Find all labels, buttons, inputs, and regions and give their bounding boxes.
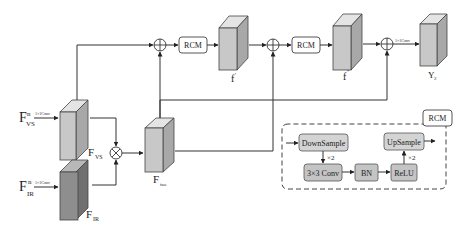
- f-ir-label: F IR: [86, 208, 99, 222]
- f-vs-label: F VS: [88, 146, 103, 160]
- rcm-module-2: RCM: [292, 37, 320, 53]
- fuse-side-connection: [175, 100, 273, 151]
- conv-block: 3×3 Conv: [304, 164, 342, 181]
- f-double-prime-label: f '': [343, 69, 349, 82]
- f-double-prime-cube: [333, 14, 362, 70]
- svg-text:F: F: [86, 208, 92, 220]
- f-fuse-label: F fuse: [153, 173, 167, 187]
- downsample-block: DownSample: [299, 134, 348, 151]
- svg-text:ReLU: ReLU: [394, 169, 414, 178]
- svg-text:UpSample: UpSample: [387, 138, 421, 147]
- repeat-down-label: ×2: [327, 154, 335, 162]
- rcm-fusion-diagram: F n VS 1×1Conv F n IR 1×1Conv F VS F IR …: [0, 0, 467, 233]
- f-ir-cube: [60, 160, 88, 220]
- ir-to-multiply-arrow: [92, 160, 116, 185]
- multiply-node: [110, 147, 122, 159]
- svg-text:F: F: [19, 179, 27, 194]
- svg-text:IR: IR: [93, 216, 99, 222]
- y2-label: Y 2: [428, 70, 437, 81]
- f-vs-cube: [60, 100, 88, 160]
- svg-text:RCM: RCM: [429, 114, 447, 123]
- svg-text:2: 2: [434, 76, 437, 81]
- y2-cube: [420, 14, 447, 66]
- fuse-to-add3: [273, 51, 387, 100]
- svg-text:': ': [235, 72, 236, 78]
- output-conv-label: 1×1Conv: [395, 38, 410, 43]
- svg-text:DownSample: DownSample: [302, 139, 346, 148]
- vs-skip-to-add1: [77, 45, 153, 100]
- rcm-legend-label-box: RCM: [423, 110, 452, 126]
- svg-text:3×3 Conv: 3×3 Conv: [307, 169, 339, 178]
- f-prime-label: f ': [231, 72, 236, 84]
- add-node-2: [267, 39, 279, 51]
- svg-text:RCM: RCM: [297, 41, 315, 50]
- svg-text:RCM: RCM: [184, 41, 202, 50]
- svg-text:VS: VS: [26, 120, 35, 128]
- repeat-up-label: ×2: [408, 154, 416, 162]
- svg-text:n: n: [28, 178, 32, 186]
- svg-text:1×1Conv: 1×1Conv: [35, 111, 50, 116]
- add-node-1: [154, 39, 166, 51]
- bn-block: BN: [355, 164, 378, 181]
- svg-text:BN: BN: [361, 169, 372, 178]
- svg-text:F: F: [88, 146, 94, 158]
- add-node-3: [381, 38, 393, 50]
- svg-text:fuse: fuse: [160, 182, 167, 187]
- f-prime-cube: [219, 16, 248, 70]
- svg-text:n: n: [27, 110, 31, 118]
- svg-text:VS: VS: [95, 154, 103, 160]
- upsample-block: UpSample: [384, 133, 424, 150]
- input-ir-label: F n IR 1×1Conv: [19, 178, 50, 198]
- svg-text:'': '': [347, 69, 349, 75]
- svg-text:IR: IR: [27, 190, 34, 198]
- vs-to-multiply-arrow: [90, 118, 116, 146]
- svg-text:F: F: [153, 173, 159, 185]
- relu-block: ReLU: [391, 164, 417, 181]
- svg-text:1×1Conv: 1×1Conv: [35, 180, 50, 185]
- rcm-module-1: RCM: [179, 37, 207, 53]
- fuse-to-add2: [160, 52, 273, 118]
- f-fuse-cube: [145, 118, 174, 172]
- input-vs-label: F n VS 1×1Conv: [19, 110, 50, 128]
